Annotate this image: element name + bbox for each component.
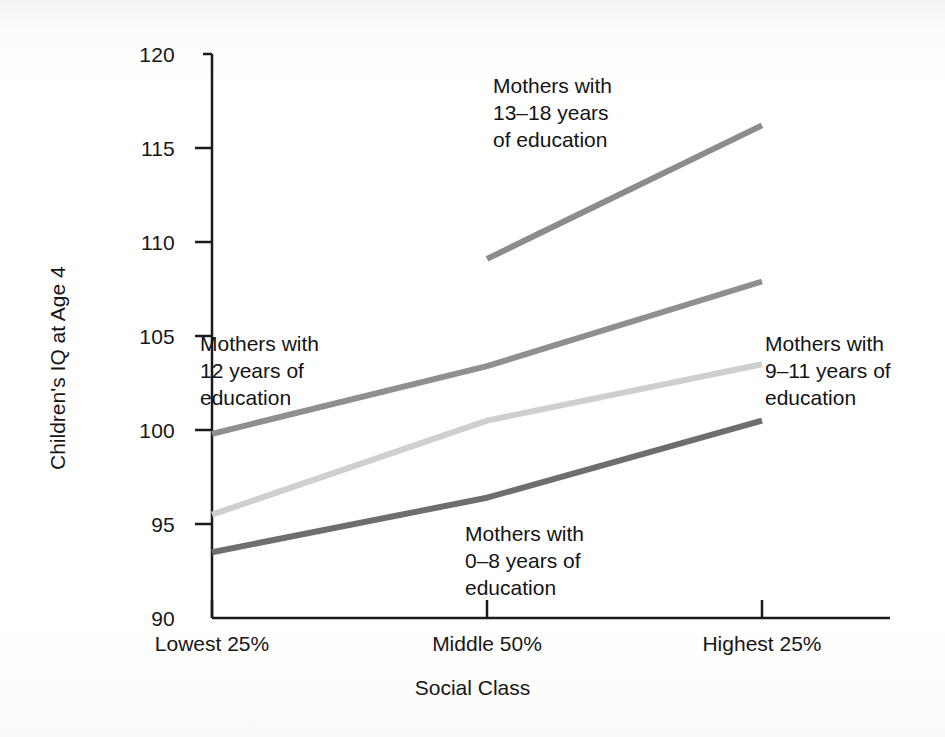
series-label-0-8-years: Mothers with 0–8 years of education (465, 520, 584, 601)
series-label-13-18-years: Mothers with 13–18 years of education (493, 72, 612, 153)
x-tick-label-middle: Middle 50% (387, 632, 587, 656)
series-label-9-11-years: Mothers with 9–11 years of education (765, 330, 891, 411)
y-tick-label-120: 120 (100, 43, 175, 67)
y-tick-label-90: 90 (100, 607, 175, 631)
x-axis-title: Social Class (0, 676, 945, 700)
chart-figure: 120 115 110 105 100 95 90 Lowest 25% Mid… (0, 0, 945, 737)
y-tick-label-100: 100 (100, 419, 175, 443)
x-tick-label-lowest: Lowest 25% (112, 632, 312, 656)
y-axis-title: Children's IQ at Age 4 (46, 266, 70, 470)
y-tick-label-95: 95 (100, 513, 175, 537)
y-tick-label-105: 105 (100, 325, 175, 349)
series-label-12-years: Mothers with 12 years of education (200, 330, 319, 411)
y-tick-label-110: 110 (100, 231, 175, 255)
y-tick-label-115: 115 (100, 137, 175, 161)
x-tick-label-highest: Highest 25% (662, 632, 862, 656)
